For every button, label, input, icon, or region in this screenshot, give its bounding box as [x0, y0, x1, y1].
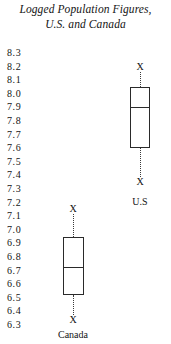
- y-tick-7-3: 7.3: [7, 184, 21, 194]
- y-tick-7-1: 7.1: [7, 211, 21, 221]
- y-tick-8-2: 8.2: [7, 62, 21, 72]
- y-tick-6-6: 6.6: [7, 279, 21, 289]
- group-label-us: U.S: [110, 196, 170, 207]
- chart-title-line-2: U.S. and Canada: [0, 17, 171, 32]
- whisker-lower-canada: [73, 295, 74, 314]
- y-tick-8-3: 8.3: [7, 48, 21, 58]
- median-line-us: [130, 107, 150, 108]
- chart-title: Logged Population Figures, U.S. and Cana…: [0, 2, 171, 32]
- whisker-cap-lower-us: X: [136, 177, 143, 187]
- y-tick-7-0: 7.0: [7, 225, 21, 235]
- y-tick-7-8: 7.8: [7, 116, 21, 126]
- whisker-lower-us: [140, 148, 141, 177]
- group-label-canada: Canada: [38, 329, 108, 340]
- y-tick-7-2: 7.2: [7, 198, 21, 208]
- median-line-canada: [63, 267, 84, 268]
- box-us: [130, 87, 150, 148]
- y-tick-7-6: 7.6: [7, 143, 21, 153]
- whisker-cap-upper-canada: X: [69, 204, 76, 214]
- whisker-upper-us: [140, 72, 141, 87]
- y-tick-7-9: 7.9: [7, 102, 21, 112]
- boxplot-chart: Logged Population Figures, U.S. and Cana…: [0, 0, 171, 344]
- whisker-cap-upper-us: X: [136, 62, 143, 72]
- y-tick-6-8: 6.8: [7, 252, 21, 262]
- y-tick-6-4: 6.4: [7, 306, 21, 316]
- whisker-upper-canada: [73, 214, 74, 236]
- whisker-cap-lower-canada: X: [69, 315, 76, 325]
- y-tick-7-5: 7.5: [7, 157, 21, 167]
- y-tick-8-1: 8.1: [7, 75, 21, 85]
- y-tick-6-9: 6.9: [7, 238, 21, 248]
- chart-title-line-1: Logged Population Figures,: [0, 2, 171, 17]
- y-tick-6-5: 6.5: [7, 293, 21, 303]
- y-tick-8-0: 8.0: [7, 89, 21, 99]
- y-tick-7-4: 7.4: [7, 170, 21, 180]
- y-tick-6-7: 6.7: [7, 266, 21, 276]
- y-tick-7-7: 7.7: [7, 130, 21, 140]
- y-tick-6-3: 6.3: [7, 320, 21, 330]
